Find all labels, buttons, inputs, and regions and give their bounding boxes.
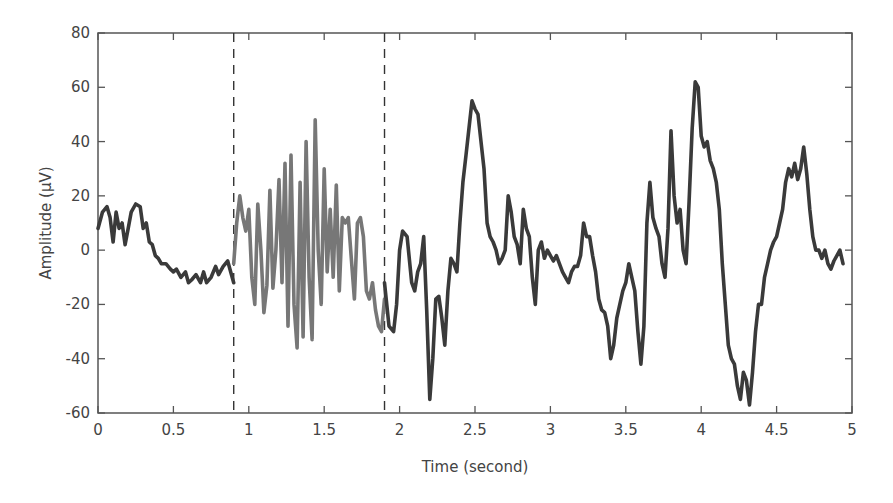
signal-line [234,120,385,348]
x-axis-label: Time (second) [421,458,529,476]
x-tick-label: 1 [244,421,254,439]
plot-frame [98,33,852,413]
x-tick-label: 3.5 [614,421,638,439]
x-tick-label: 0 [93,421,103,439]
y-tick-label: -20 [66,295,91,313]
x-tick-label: 2.5 [463,421,487,439]
y-tick-label: 40 [71,133,90,151]
x-tick-label: 3 [546,421,556,439]
y-tick-label: -40 [66,350,91,368]
y-tick-label: 80 [71,24,90,42]
x-tick-label: 1.5 [312,421,336,439]
y-axis-label: Amplitude (μV) [37,166,55,279]
signal-line [98,204,234,283]
y-tick-label: -60 [66,404,91,422]
x-tick-label: 4.5 [765,421,789,439]
x-tick-label: 5 [847,421,857,439]
x-tick-label: 4 [696,421,706,439]
x-tick-label: 2 [395,421,405,439]
signal-line [385,82,844,405]
y-tick-label: 0 [80,241,90,259]
y-tick-label: 60 [71,78,90,96]
eeg-line-chart: 00.511.522.533.544.55 -60-40-20020406080… [0,0,893,503]
x-tick-label: 0.5 [161,421,185,439]
y-tick-label: 20 [71,187,90,205]
signal-traces [98,82,843,405]
